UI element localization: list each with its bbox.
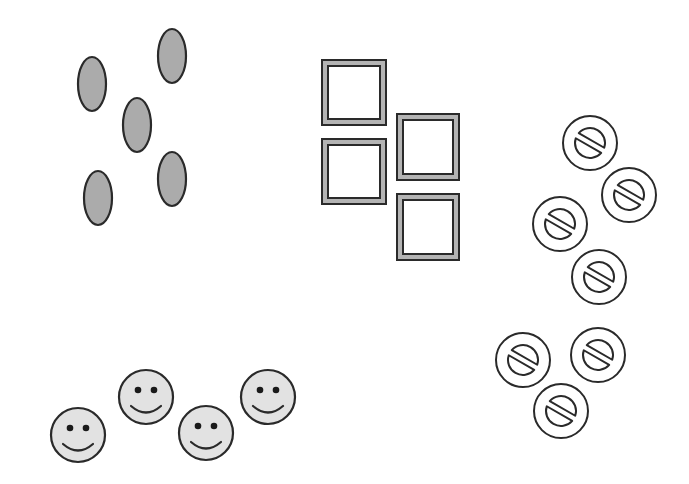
face-outline bbox=[119, 370, 173, 424]
split-circle-icon bbox=[571, 328, 625, 382]
framed-square bbox=[397, 194, 459, 260]
split-circle-icon bbox=[496, 333, 550, 387]
square-frame-group bbox=[322, 60, 459, 260]
framed-square bbox=[322, 60, 386, 125]
gray-ellipse bbox=[123, 98, 151, 152]
face-outline bbox=[241, 370, 295, 424]
face-outline bbox=[179, 406, 233, 460]
right-eye bbox=[211, 423, 218, 430]
framed-square bbox=[322, 139, 386, 204]
gray-ellipse bbox=[84, 171, 112, 225]
split-circle-icon bbox=[572, 250, 626, 304]
split-circle-group bbox=[496, 116, 656, 438]
split-circle-icon bbox=[602, 168, 656, 222]
left-eye bbox=[195, 423, 202, 430]
right-eye bbox=[151, 387, 158, 394]
gray-ellipse bbox=[158, 29, 186, 83]
split-circle-icon bbox=[563, 116, 617, 170]
left-eye bbox=[135, 387, 142, 394]
right-eye bbox=[83, 425, 90, 432]
right-eye bbox=[273, 387, 280, 394]
puzzle-canvas bbox=[0, 0, 689, 484]
gray-ellipse bbox=[158, 152, 186, 206]
smiley-face-icon bbox=[119, 370, 173, 424]
face-outline bbox=[51, 408, 105, 462]
gray-ellipse bbox=[78, 57, 106, 111]
ellipse-group bbox=[78, 29, 186, 225]
left-eye bbox=[257, 387, 264, 394]
smiley-face-icon bbox=[241, 370, 295, 424]
split-circle-icon bbox=[533, 197, 587, 251]
shape-scene bbox=[0, 0, 689, 484]
smiley-face-icon bbox=[179, 406, 233, 460]
smiley-group bbox=[51, 370, 295, 462]
left-eye bbox=[67, 425, 74, 432]
smiley-face-icon bbox=[51, 408, 105, 462]
split-circle-icon bbox=[534, 384, 588, 438]
framed-square bbox=[397, 114, 459, 180]
